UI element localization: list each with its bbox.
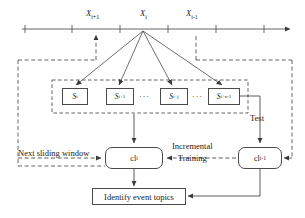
incremental-training-line-2: Training (172, 152, 213, 164)
axis-label-x-next: Xi+1 (86, 9, 99, 20)
test-label: Test (250, 113, 264, 123)
segment-box-s-i-plus-j: Si+j (160, 88, 188, 105)
diagram-vector-layer (0, 0, 305, 218)
incremental-training-label: Incremental Training (172, 140, 213, 165)
segments-ellipsis-left: ··· (139, 92, 150, 101)
axis-label-x-previous: Xi-1 (186, 9, 198, 20)
incremental-training-line-1: Incremental (172, 140, 213, 152)
diagram-canvas: Xi+1 Xi Xi-1 Si Si+1 Si+j Si+n-1 ··· ···… (0, 0, 305, 218)
split-arrows (76, 31, 222, 85)
identify-event-topics-box: Identify event topics (92, 188, 186, 205)
next-sliding-window-label: Next sliding window (18, 148, 89, 158)
time-axis (22, 25, 290, 33)
classifier-box-cl-i: cli (105, 147, 163, 169)
axis-label-x-current: Xi (140, 9, 147, 20)
segments-ellipsis-right: ··· (192, 92, 203, 101)
segment-box-s-i-plus-n-1: Si+n-1 (208, 88, 240, 105)
classifier-box-cl-i-minus-1: cli-1 (238, 147, 282, 169)
segment-box-s-i: Si (62, 88, 88, 105)
segment-box-s-i-plus-1: Si+1 (106, 88, 134, 105)
